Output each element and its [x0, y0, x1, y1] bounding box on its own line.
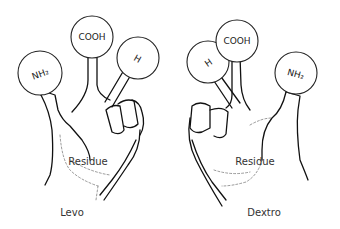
left-cooh-group: COOH [71, 16, 113, 58]
chirality-diagram: NH₂ COOH H Residue Levo H CO [0, 0, 340, 229]
dextro-caption: Dextro [247, 207, 281, 218]
left-h-group: H [117, 37, 159, 79]
right-cooh-group: COOH [216, 20, 258, 62]
levo-caption: Levo [60, 207, 84, 218]
svg-text:COOH: COOH [223, 36, 250, 46]
right-residue-label: Residue [235, 156, 274, 167]
left-residue-label: Residue [68, 156, 107, 167]
svg-text:COOH: COOH [78, 32, 105, 42]
left-nh2-group: NH₂ [18, 51, 62, 95]
right-nh2-group: NH₂ [275, 52, 317, 94]
